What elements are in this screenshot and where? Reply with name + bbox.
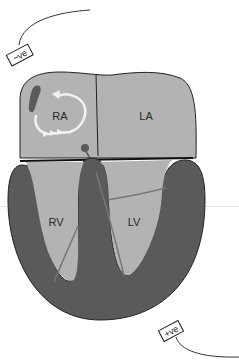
positive-electrode-wire xyxy=(176,337,239,357)
heart-conduction-diagram: −ve RA LA RV LV +ve xyxy=(0,0,239,364)
negative-electrode-tag: −ve xyxy=(6,44,33,66)
positive-electrode-tag: +ve xyxy=(158,321,183,342)
negative-electrode-wire xyxy=(19,10,90,45)
label-right-atrium: RA xyxy=(52,110,68,122)
label-right-ventricle: RV xyxy=(48,216,64,228)
atria xyxy=(20,72,196,158)
label-left-atrium: LA xyxy=(139,110,153,122)
label-left-ventricle: LV xyxy=(128,216,141,228)
